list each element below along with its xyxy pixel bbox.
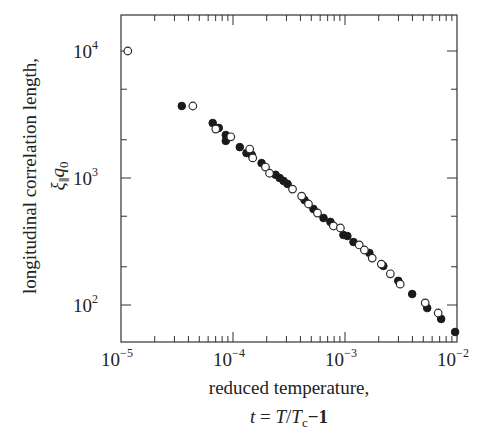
y-tick-label: 102 [73, 292, 98, 316]
open-data-point [337, 224, 345, 232]
open-data-point [298, 192, 306, 200]
x-tick-label: 10−3 [325, 346, 357, 370]
filled-data-point [344, 232, 352, 240]
open-data-point [361, 246, 369, 254]
filled-data-point [408, 290, 416, 298]
y-axis-title: longitudinal correlation length, [19, 58, 40, 294]
open-data-point [124, 47, 132, 55]
open-data-point [246, 145, 254, 153]
y-symbol-0: 0 [56, 161, 71, 168]
y-tick-label: 103 [73, 165, 98, 189]
y-tick-label: 104 [73, 38, 98, 62]
open-data-point [289, 185, 297, 193]
open-data-point [227, 133, 235, 141]
open-data-point [314, 209, 322, 217]
x-formula-eq: = [255, 406, 275, 427]
x-formula-minus1: −1 [308, 406, 328, 427]
open-data-point [368, 254, 376, 262]
open-data-point [421, 299, 429, 307]
filled-data-point [451, 328, 459, 336]
open-data-point [266, 169, 274, 177]
scatter-chart: 10−510−410−310−2102103104 reduced temper… [0, 0, 504, 438]
axis-ticks [121, 15, 457, 342]
y-axis-symbol: ξ∥q0 [47, 161, 71, 190]
tick-labels: 10−510−410−310−2102103104 [73, 38, 469, 370]
open-data-point [387, 270, 395, 278]
data-points [124, 47, 459, 336]
plot-frame [121, 15, 457, 342]
open-data-point [396, 280, 404, 288]
filled-data-point [178, 102, 186, 110]
open-data-point [249, 154, 257, 162]
open-data-point [434, 309, 442, 317]
filled-data-point [236, 143, 244, 151]
open-data-point [305, 200, 313, 208]
x-axis-formula: t = T/Tc−1 [250, 406, 328, 430]
x-tick-label: 10−2 [437, 346, 469, 370]
x-tick-label: 10−5 [101, 346, 133, 370]
open-data-point [212, 125, 220, 133]
open-data-point [378, 260, 386, 268]
y-symbol-q: q [47, 167, 68, 177]
open-data-point [189, 102, 197, 110]
x-axis-title: reduced temperature, [209, 377, 369, 398]
x-tick-label: 10−4 [213, 346, 245, 370]
